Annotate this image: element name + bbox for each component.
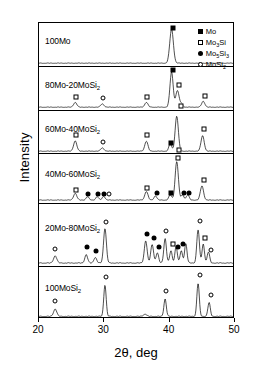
diffraction-trace <box>39 267 233 319</box>
phase-marker-filled-square <box>170 25 175 30</box>
legend-item: Mo <box>195 26 229 37</box>
phase-marker-open-circle <box>164 229 169 234</box>
phase-marker-filled-circle <box>93 249 98 254</box>
legend-symbol-open-square-icon <box>195 40 206 45</box>
legend-item: Mo5Si3 <box>195 48 229 59</box>
legend-label: MoSi2 <box>206 60 226 69</box>
phase-marker-open-square <box>73 94 78 99</box>
legend-item: MoSi2 <box>195 59 229 70</box>
phase-marker-open-square <box>176 155 181 160</box>
phase-marker-filled-square <box>168 140 173 145</box>
phase-marker-open-square <box>170 241 175 246</box>
xrd-panel: 100MoSi2 <box>39 267 233 319</box>
legend-symbol-filled-square-icon <box>195 29 206 34</box>
xrd-panel: 20Mo-80MoSi2 <box>39 204 233 267</box>
diffraction-trace <box>39 111 233 154</box>
phase-marker-filled-circle <box>187 190 192 195</box>
phase-marker-open-square <box>179 104 184 109</box>
phase-marker-filled-square <box>168 190 173 195</box>
xrd-panel: 80Mo-20MoSi2 <box>39 67 233 111</box>
x-tick-label: 40 <box>163 324 174 335</box>
phase-marker-open-circle <box>101 139 106 144</box>
phase-marker-open-square <box>176 148 181 153</box>
x-tick-mark <box>169 318 170 322</box>
phase-marker-open-square <box>145 132 150 137</box>
phase-marker-open-circle <box>53 299 58 304</box>
legend-symbol-open-circle-icon <box>195 62 206 67</box>
phase-marker-open-square <box>177 82 182 87</box>
legend-label: Mo <box>206 27 216 36</box>
phase-marker-open-circle <box>164 289 169 294</box>
legend-symbol-filled-circle-icon <box>195 51 206 56</box>
phase-marker-open-square <box>202 127 207 132</box>
y-axis-label: Intensity <box>17 98 32 218</box>
phase-marker-open-circle <box>197 273 202 278</box>
phase-marker-open-square <box>145 94 150 99</box>
x-tick-label: 20 <box>32 324 43 335</box>
phase-marker-filled-square <box>170 67 175 72</box>
x-axis-label: 2θ, deg <box>38 345 234 360</box>
diffraction-trace <box>39 67 233 110</box>
phase-marker-open-circle <box>103 275 108 280</box>
phase-marker-open-circle <box>197 219 202 224</box>
phase-marker-open-square <box>73 132 78 137</box>
xrd-panel: 60Mo-40MoSi2 <box>39 111 233 155</box>
x-tick-mark <box>103 318 104 322</box>
plot-area: 100Mo80Mo-20MoSi260Mo-40MoSi240Mo-60MoSi… <box>38 22 234 318</box>
phase-marker-open-square <box>202 93 207 98</box>
legend-label: Mo3Si <box>206 38 226 47</box>
x-tick-label: 50 <box>228 324 239 335</box>
phase-marker-open-square <box>73 188 78 193</box>
phase-marker-open-circle <box>208 292 213 297</box>
phase-marker-open-square <box>201 177 206 182</box>
phase-marker-open-circle <box>103 220 108 225</box>
phase-marker-filled-circle <box>157 245 162 250</box>
xrd-panel: 40Mo-60MoSi2 <box>39 154 233 204</box>
phase-marker-open-square <box>145 186 150 191</box>
phase-marker-filled-circle <box>154 191 159 196</box>
x-tick-mark <box>234 318 235 322</box>
phase-marker-filled-circle <box>180 241 185 246</box>
phase-marker-open-circle <box>106 192 111 197</box>
phase-marker-filled-circle <box>86 192 91 197</box>
phase-marker-filled-circle <box>95 192 100 197</box>
phase-marker-open-circle <box>101 95 106 100</box>
phase-marker-open-square <box>202 235 207 240</box>
xrd-figure: Intensity 100Mo80Mo-20MoSi260Mo-40MoSi24… <box>0 0 260 374</box>
legend-item: Mo3Si <box>195 37 229 48</box>
x-tick-label: 30 <box>98 324 109 335</box>
x-tick-mark <box>38 318 39 322</box>
legend-label: Mo5Si3 <box>206 49 229 58</box>
phase-marker-open-circle <box>208 248 213 253</box>
phase-marker-filled-circle <box>84 245 89 250</box>
phase-marker-open-circle <box>53 247 58 252</box>
phase-marker-filled-circle <box>144 231 149 236</box>
phase-marker-filled-circle <box>151 236 156 241</box>
legend: MoMo3SiMo5Si3MoSi2 <box>195 26 229 70</box>
